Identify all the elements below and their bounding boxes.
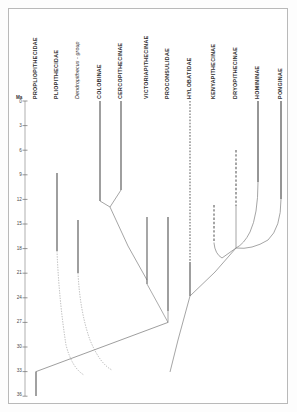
branch-homininae-stem xyxy=(236,182,258,248)
phylogeny-figure: Ma 0 3 6 9 12 15 18 21 24 27 30 33 36 PR… xyxy=(0,0,297,412)
cercopithecoid-clade xyxy=(100,101,168,322)
time-axis xyxy=(23,101,28,396)
catarrhine-stem xyxy=(36,322,168,396)
branch-ponginae-stem xyxy=(236,199,281,248)
branch-hominoid-base xyxy=(170,296,190,372)
branch-victoriapithecinae-stem xyxy=(147,284,168,322)
hominoid-clade xyxy=(170,101,281,372)
branch-pliopithecidae-stem xyxy=(57,251,84,375)
branch-catarrhine-base xyxy=(36,322,168,371)
branch-great-ape-stem xyxy=(190,248,236,296)
phylogeny-plot xyxy=(0,0,297,412)
node-cercopithecid-split xyxy=(100,190,121,207)
branch-kenyapithecinae-stem xyxy=(214,243,236,258)
branch-cercopithecid-stem xyxy=(110,207,147,280)
branch-dendropithecus-stem xyxy=(78,273,112,370)
